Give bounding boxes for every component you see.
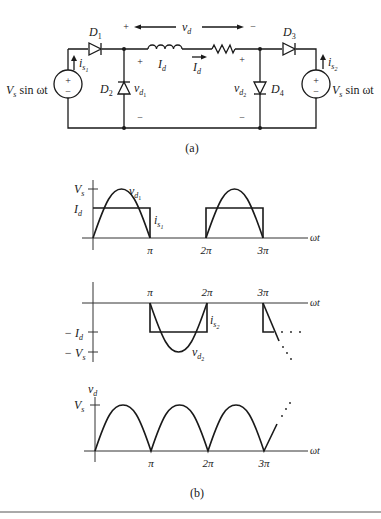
diode-d4-icon	[254, 82, 266, 94]
vd2-curve	[263, 303, 279, 341]
diode-d2-icon	[118, 82, 130, 94]
vd1-plus: +	[137, 56, 143, 67]
tick-3pi: 3π	[256, 286, 269, 298]
continuation-dots	[281, 331, 301, 360]
vd2-minus: −	[239, 112, 245, 123]
vs-label: Vs	[74, 182, 84, 198]
vd-plus: +	[123, 21, 129, 32]
continuation-dots	[281, 402, 291, 417]
vd1-minus: −	[137, 112, 143, 123]
is2-label: is2	[328, 55, 337, 72]
tick-3pi: 3π	[256, 244, 269, 256]
tick-pi: π	[147, 286, 153, 298]
junction-dot	[122, 126, 126, 130]
inductor-icon	[148, 45, 182, 49]
resistor-icon	[212, 45, 235, 53]
d1-label: D1	[88, 25, 102, 41]
axis-label-wt: ωt	[310, 232, 320, 243]
axis-label-wt: ωt	[310, 445, 320, 456]
is1-label: is1	[79, 56, 88, 73]
vd-label: vd	[182, 20, 192, 36]
is2-curve-label: is2	[210, 313, 219, 330]
vd-minus: −	[250, 21, 256, 32]
source-left-label: Vs sin ωt	[6, 83, 48, 99]
vd-curve	[95, 405, 277, 451]
source-right-minus: −	[313, 86, 319, 97]
vd1-label: vd1	[134, 81, 146, 98]
d3-label: D3	[282, 25, 296, 41]
vd1-curve-label: vd1	[129, 184, 141, 201]
waveform-vd: vd Vs π 2π 3π ωt (b)	[74, 382, 320, 500]
diode-d3-icon	[283, 43, 295, 55]
vd1-curve	[206, 189, 263, 238]
current-label: Id	[192, 60, 202, 76]
figure: + − + − Vs sin ωt Vs sin ωt is1 is2 D1 D…	[0, 0, 381, 519]
neg-id-label: − Id	[64, 326, 84, 342]
circuit-diagram: + − + − Vs sin ωt Vs sin ωt is1 is2 D1 D…	[6, 20, 374, 155]
caption-b: (b)	[190, 486, 204, 500]
tick-2pi: 2π	[201, 286, 213, 298]
tick-3pi: 3π	[257, 457, 270, 469]
waveform-vd2-is2: − Id − Vs π 2π 3π ωt is2 vd2	[64, 282, 320, 362]
axis-label-wt: ωt	[310, 297, 320, 308]
neg-vs-label: − Vs	[64, 346, 86, 362]
is1-curve-label: is1	[154, 213, 163, 230]
tick-pi: π	[147, 244, 153, 256]
caption-a: (a)	[185, 141, 198, 155]
vd1-curve	[93, 189, 150, 238]
vd2-curve-label: vd2	[192, 345, 204, 362]
inductor-current-label: Id	[157, 57, 167, 73]
d2-label: D2	[99, 82, 113, 98]
source-left-plus: +	[65, 75, 71, 86]
waveform-vd1-is1: Vs Id vd1 is1 π 2π 3π ωt	[73, 180, 320, 256]
vd2-plus: +	[239, 54, 245, 65]
id-label: Id	[73, 202, 83, 218]
d4-label: D4	[270, 82, 284, 98]
source-left-minus: −	[65, 86, 71, 97]
tick-2pi: 2π	[200, 244, 212, 256]
tick-pi: π	[148, 457, 154, 469]
vd-axis-label: vd	[88, 382, 98, 398]
tick-2pi: 2π	[202, 457, 214, 469]
junction-dot	[122, 47, 126, 51]
vd2-label: vd2	[234, 81, 246, 98]
source-right-plus: +	[313, 75, 319, 86]
vs-label: Vs	[74, 398, 84, 414]
junction-dot	[258, 47, 262, 51]
source-right-label: Vs sin ωt	[332, 83, 374, 99]
diode-d1-icon	[89, 43, 101, 55]
vd2-curve	[150, 303, 207, 352]
junction-dot	[258, 126, 262, 130]
